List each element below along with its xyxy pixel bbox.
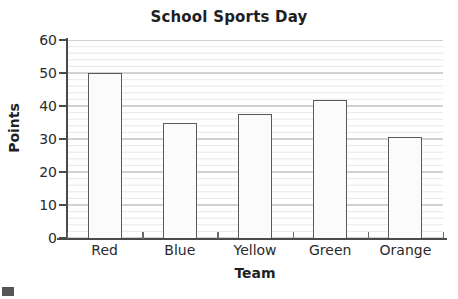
bar-slot [142, 40, 217, 238]
scan-artifact [2, 287, 14, 296]
x-axis-ticks [67, 232, 443, 239]
bar-red [88, 73, 122, 238]
bar-slot [67, 40, 142, 238]
y-tick-label: 20 [5, 164, 57, 180]
y-tick [59, 237, 67, 239]
x-tick [443, 232, 444, 239]
bar-yellow [238, 114, 272, 238]
y-tick-label: 30 [5, 131, 57, 147]
bar-slot [217, 40, 292, 238]
bar-green [313, 100, 347, 238]
y-tick [59, 72, 67, 74]
x-axis-title: Team [67, 265, 443, 281]
y-axis-tick-labels: 0102030405060 [0, 0, 57, 299]
y-tick-label: 10 [5, 197, 57, 213]
x-tick [67, 232, 68, 239]
x-tick [142, 232, 143, 239]
x-tick [217, 232, 218, 239]
x-tick-label-red: Red [67, 242, 142, 258]
bar-slot [293, 40, 368, 238]
y-tick [59, 105, 67, 107]
x-tick-label-green: Green [293, 242, 368, 258]
x-tick-label-blue: Blue [142, 242, 217, 258]
y-tick [59, 138, 67, 140]
bars-layer [67, 40, 443, 238]
bar-slot [368, 40, 443, 238]
x-tick-label-orange: Orange [368, 242, 443, 258]
x-tick-label-yellow: Yellow [217, 242, 292, 258]
y-tick-label: 50 [5, 65, 57, 81]
y-tick [59, 39, 67, 41]
bar-blue [163, 123, 197, 238]
chart-container: School Sports Day Points 0102030405060 R… [0, 0, 458, 299]
y-tick [59, 204, 67, 206]
y-tick [59, 171, 67, 173]
y-tick-label: 40 [5, 98, 57, 114]
y-tick-label: 0 [5, 230, 57, 246]
y-tick-label: 60 [5, 32, 57, 48]
x-axis-tick-labels: RedBlueYellowGreenOrange [67, 242, 443, 258]
plot-area [67, 40, 443, 238]
x-tick [293, 232, 294, 239]
chart-title: School Sports Day [0, 8, 458, 26]
bar-orange [388, 137, 422, 238]
x-tick [368, 232, 369, 239]
